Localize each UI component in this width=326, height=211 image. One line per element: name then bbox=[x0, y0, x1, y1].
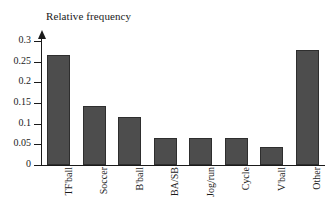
y-axis-tick: 0.1 bbox=[34, 124, 41, 125]
y-axis-tick-label: 0.15 bbox=[14, 96, 32, 107]
bar bbox=[118, 117, 141, 165]
plot-area: 00.050.10.150.20.250.3 bbox=[41, 30, 325, 166]
chart-figure: Relative frequency 00.050.10.150.20.250.… bbox=[0, 0, 326, 211]
y-axis-tick-label: 0.05 bbox=[14, 137, 32, 148]
bar bbox=[83, 106, 106, 165]
y-axis-tick-label: 0.25 bbox=[14, 55, 32, 66]
x-axis-line bbox=[41, 165, 325, 166]
bar bbox=[260, 147, 283, 165]
chart-title: Relative frequency bbox=[46, 10, 131, 22]
x-axis-label: B'ball bbox=[134, 167, 145, 190]
x-axis-label: Other bbox=[311, 167, 322, 190]
y-axis-tick: 0.25 bbox=[34, 62, 41, 63]
x-axis-label: Cycle bbox=[240, 167, 251, 190]
y-axis-tick-label: 0.2 bbox=[19, 75, 32, 86]
y-axis-tick-label: 0 bbox=[26, 158, 31, 169]
y-axis-tick: 0.05 bbox=[34, 144, 41, 145]
bar bbox=[225, 138, 248, 165]
y-axis-tick: 0.2 bbox=[34, 82, 41, 83]
x-axis-label: Jog/run bbox=[205, 167, 216, 197]
x-axis-label: BA/SB bbox=[169, 167, 180, 196]
y-axis-tick: 0 bbox=[34, 165, 41, 166]
y-axis-tick-label: 0.1 bbox=[19, 117, 32, 128]
x-axis-label: TF'ball bbox=[63, 167, 74, 195]
y-axis-tick: 0.15 bbox=[34, 103, 41, 104]
y-axis-tick: 0.3 bbox=[34, 41, 41, 42]
bar bbox=[47, 55, 70, 165]
x-axis-labels: TF'ballSoccerB'ballBA/SBJog/runCycleV'ba… bbox=[41, 167, 325, 211]
y-axis-tick-label: 0.3 bbox=[19, 34, 32, 45]
x-axis-label: Soccer bbox=[98, 167, 109, 194]
bar-series bbox=[41, 30, 325, 165]
bar bbox=[296, 50, 319, 165]
bar bbox=[189, 138, 212, 165]
bar bbox=[154, 138, 177, 165]
x-axis-label: V'ball bbox=[276, 167, 287, 191]
